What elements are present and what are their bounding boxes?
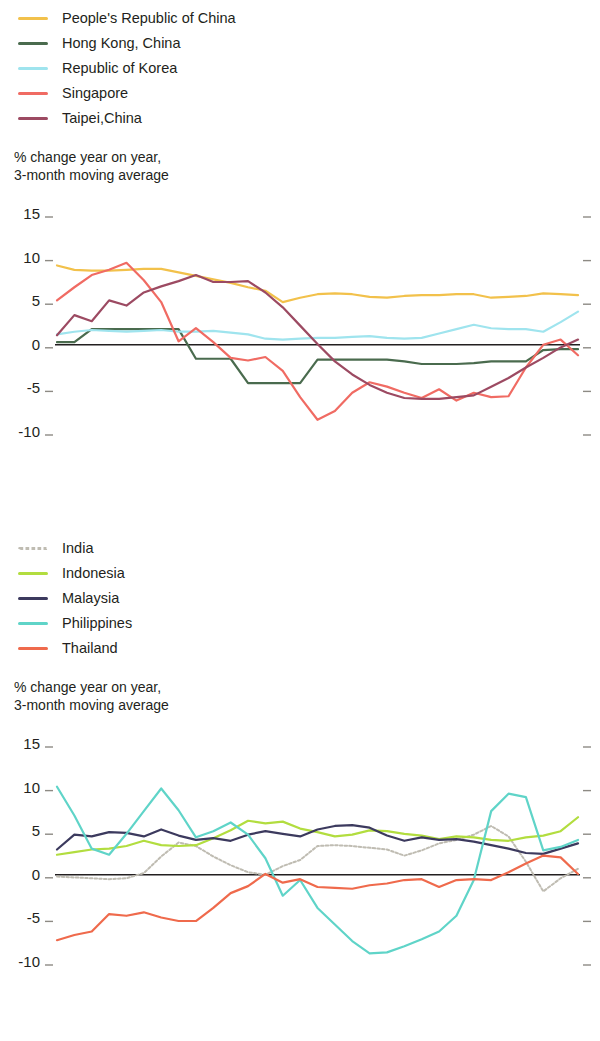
legend-swatch-icon [18,547,48,550]
chart-svg-top: 151050-5-10Jan2014JulJan2015JulJan2016Ju… [0,196,600,446]
legend-swatch-icon [18,117,48,120]
axis-title-bottom: % change year on year, 3-month moving av… [14,678,169,714]
legend-swatch-icon [18,622,48,625]
x-axis-tick-label-month: Jan [462,444,486,446]
y-axis-tick-label: 15 [23,205,40,222]
legend-item-india[interactable]: India [18,536,132,561]
y-axis-tick-label: -5 [27,909,40,926]
chart-svg-bottom: 151050-5-10Jan2014JulJan2015JulJan2016Ju… [0,726,600,976]
legend-item-malaysia[interactable]: Malaysia [18,586,132,611]
legend-swatch-icon [18,572,48,575]
chart-panel-bottom: IndiaIndonesiaMalaysiaPhilippinesThailan… [0,530,600,1041]
y-axis-tick-label: -10 [18,423,40,440]
legend-label: Philippines [62,616,132,631]
legend-swatch-icon [18,17,48,20]
legend-swatch-icon [18,597,48,600]
legend-swatch-icon [18,42,48,45]
legend-label: Singapore [62,86,128,101]
y-axis-tick-label: 10 [23,249,40,266]
x-axis-tick-label-month: Jul [568,974,587,976]
legend-top: People's Republic of ChinaHong Kong, Chi… [18,6,236,131]
legend-item-taipei-china[interactable]: Taipei,China [18,106,236,131]
y-axis-tick-label: -10 [18,953,40,970]
series-line-singapore [57,263,578,420]
legend-label: Malaysia [62,591,119,606]
x-axis-tick-label-month: Jul [152,974,171,976]
legend-label: Thailand [62,641,118,656]
legend-item-hong-kong-china[interactable]: Hong Kong, China [18,31,236,56]
legend-label: Hong Kong, China [62,36,181,51]
x-axis-tick-label-month: Jul [360,444,379,446]
y-axis-tick-label: 0 [32,336,40,353]
legend-swatch-icon [18,92,48,95]
y-axis-tick-label: 0 [32,866,40,883]
x-axis-tick-label-month: Jan [45,974,69,976]
x-axis-tick-label-month: Jul [152,444,171,446]
series-line-philippines [57,787,578,954]
legend-item-people-s-republic-of-china[interactable]: People's Republic of China [18,6,236,31]
axis-title-top: % change year on year, 3-month moving av… [14,148,169,184]
x-axis-tick-label-month: Jan [253,444,277,446]
legend-swatch-icon [18,647,48,650]
y-axis-tick-label: 15 [23,735,40,752]
series-line-thailand [57,856,578,941]
legend-item-indonesia[interactable]: Indonesia [18,561,132,586]
x-axis-tick-label-month: Jul [568,444,587,446]
x-axis-tick-label-month: Jul [360,974,379,976]
legend-label: Indonesia [62,566,125,581]
legend-item-philippines[interactable]: Philippines [18,611,132,636]
plot-area-top: 151050-5-10Jan2014JulJan2015JulJan2016Ju… [0,196,600,446]
legend-label: Taipei,China [62,111,142,126]
legend-item-republic-of-korea[interactable]: Republic of Korea [18,56,236,81]
y-axis-tick-label: 5 [32,292,40,309]
legend-swatch-icon [18,67,48,70]
y-axis-tick-label: 5 [32,822,40,839]
legend-label: Republic of Korea [62,61,177,76]
chart-panel-top: People's Republic of ChinaHong Kong, Chi… [0,0,600,520]
legend-item-singapore[interactable]: Singapore [18,81,236,106]
series-line-republic-of-korea [57,312,578,340]
x-axis-tick-label-month: Jan [253,974,277,976]
y-axis-tick-label: 10 [23,779,40,796]
legend-label: India [62,541,93,556]
legend-label: People's Republic of China [62,11,236,26]
y-axis-tick-label: -5 [27,379,40,396]
legend-bottom: IndiaIndonesiaMalaysiaPhilippinesThailan… [18,536,132,661]
x-axis-tick-label-month: Jan [45,444,69,446]
x-axis-tick-label-month: Jan [462,974,486,976]
legend-item-thailand[interactable]: Thailand [18,636,132,661]
plot-area-bottom: 151050-5-10Jan2014JulJan2015JulJan2016Ju… [0,726,600,976]
